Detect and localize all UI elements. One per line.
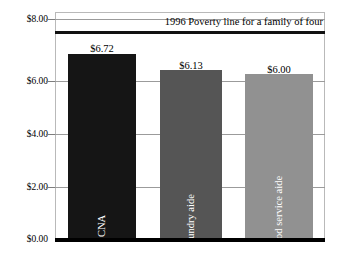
y-axis-label-8: $8.00 xyxy=(27,14,48,24)
bar-chart: $8.00 $6.00 $4.00 $2.00 $0.00 1996 Pover… xyxy=(0,0,344,256)
y-tick-2 xyxy=(46,187,55,188)
poverty-line-annotation: 1996 Poverty line for a family of four xyxy=(165,16,323,28)
y-axis-label-6: $6.00 xyxy=(27,76,48,86)
bar-laundry-aide[interactable]: Laundry aide xyxy=(160,70,222,238)
x-axis-baseline xyxy=(55,238,325,242)
bar-category-label-food-service-aide: Food service aide xyxy=(245,210,313,222)
bar-category-label-laundry-aide: Laundry aide xyxy=(160,216,222,228)
bar-food-service-aide[interactable]: Food service aide xyxy=(245,74,313,238)
y-axis-label-4: $4.00 xyxy=(27,129,48,139)
y-axis-label-2: $2.00 xyxy=(27,182,48,192)
bar-cna[interactable]: CNA xyxy=(68,54,136,238)
poverty-line-rule xyxy=(55,31,325,34)
y-tick-4 xyxy=(46,134,55,135)
y-tick-6 xyxy=(46,81,55,82)
bar-category-label-cna: CNA xyxy=(68,220,136,232)
y-axis-label-0: $0.00 xyxy=(27,234,48,244)
y-tick-8 xyxy=(46,19,55,20)
